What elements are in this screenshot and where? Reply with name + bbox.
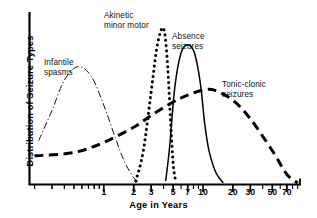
seizure-distribution-chart: Distribution of Seizure Types Age in Yea… [0, 0, 317, 218]
curve-tonic-clonic-seizures [35, 89, 298, 183]
x-tick-label: 30 [240, 187, 260, 197]
x-tick-label: 10 [193, 187, 213, 197]
x-tick-label: 70 [277, 187, 297, 197]
curve-label: Absence seizures [172, 32, 205, 51]
chart-curves [35, 28, 298, 183]
chart-plot-area [0, 0, 317, 218]
y-axis-label: Distribution of Seizure Types [25, 26, 35, 176]
x-axis-label: Age in Years [0, 200, 317, 210]
curve-infantile-spasms [39, 67, 140, 183]
curve-label: Akinetic minor motor [104, 11, 149, 30]
x-tick-label: 1 [94, 187, 114, 197]
x-tick-label: 3 [141, 187, 161, 197]
curve-label: Infantile spasms [44, 58, 74, 77]
curve-label: Tonic-clonic seizures [222, 80, 266, 99]
